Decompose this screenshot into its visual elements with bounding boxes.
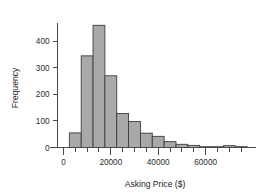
y-tick-label: 0 (45, 144, 50, 153)
histogram-bar (129, 121, 141, 147)
histogram-bar (69, 133, 81, 148)
histogram-bar (140, 133, 152, 147)
histogram-chart: 0100200300400 0200004000060000 Asking Pr… (0, 0, 261, 196)
x-tick-label: 20000 (99, 158, 122, 167)
x-tick-label: 60000 (194, 158, 217, 167)
x-axis: 0200004000060000 (50, 148, 256, 167)
x-tick-label: 0 (61, 158, 66, 167)
histogram-bar (164, 142, 176, 148)
x-ticks-group: 0200004000060000 (61, 148, 241, 167)
chart-canvas: 0100200300400 0200004000060000 Asking Pr… (0, 0, 261, 196)
histogram-bar (152, 136, 164, 147)
y-tick-label: 100 (36, 117, 50, 126)
y-tick-label: 300 (36, 64, 50, 73)
histogram-bar (93, 25, 105, 147)
plot-area (69, 25, 247, 147)
y-axis-title: Frequency (10, 67, 20, 108)
x-axis-title: Asking Price ($) (125, 179, 186, 189)
histogram-bar (81, 56, 93, 148)
y-ticks-group: 0100200300400 (36, 37, 58, 152)
y-axis: 0100200300400 (36, 23, 58, 153)
bars-group (69, 25, 247, 147)
histogram-bar (117, 114, 129, 148)
histogram-bar (105, 76, 117, 148)
x-tick-label: 40000 (147, 158, 170, 167)
y-tick-label: 400 (36, 37, 50, 46)
y-tick-label: 200 (36, 90, 50, 99)
